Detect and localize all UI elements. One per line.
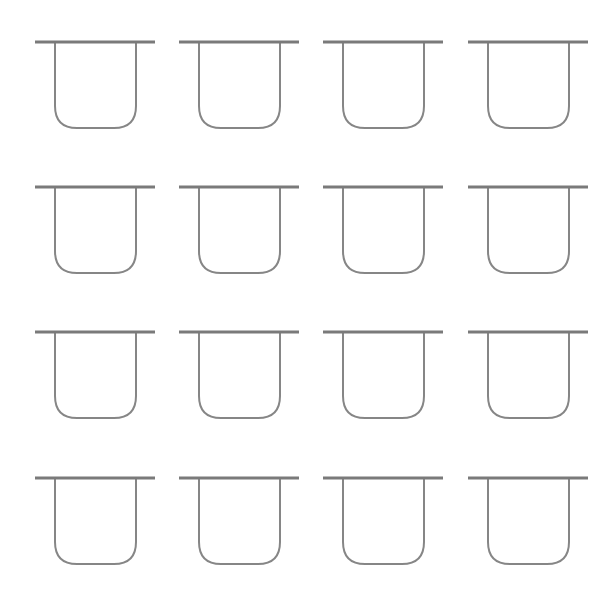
cup-body-outline	[343, 478, 424, 564]
cup-body-outline	[199, 187, 280, 273]
cup-shape-r2-c3	[323, 187, 443, 273]
cup-body-outline	[343, 42, 424, 128]
cup-shape-r3-c1	[35, 332, 155, 418]
cup-body-outline	[343, 332, 424, 418]
cup-shape-r1-c1	[35, 42, 155, 128]
cup-shape-r2-c4	[468, 187, 588, 273]
cup-shape-r3-c3	[323, 332, 443, 418]
cup-shape-r4-c3	[323, 478, 443, 564]
cup-body-outline	[488, 332, 569, 418]
cup-body-outline	[199, 42, 280, 128]
cup-body-outline	[55, 478, 136, 564]
cup-body-outline	[199, 332, 280, 418]
cup-shape-r3-c4	[468, 332, 588, 418]
cup-body-outline	[55, 42, 136, 128]
cup-shape-r3-c2	[179, 332, 299, 418]
cup-grid-diagram	[0, 0, 616, 602]
cup-shape-r2-c2	[179, 187, 299, 273]
cup-shape-r1-c2	[179, 42, 299, 128]
cup-shape-r4-c4	[468, 478, 588, 564]
cup-shape-r4-c2	[179, 478, 299, 564]
cup-body-outline	[488, 187, 569, 273]
cup-body-outline	[55, 187, 136, 273]
cup-body-outline	[488, 42, 569, 128]
cup-shape-r4-c1	[35, 478, 155, 564]
cup-body-outline	[343, 187, 424, 273]
cup-shape-r1-c3	[323, 42, 443, 128]
cup-grid-svg	[0, 0, 616, 602]
cup-shape-r1-c4	[468, 42, 588, 128]
cup-body-outline	[55, 332, 136, 418]
cup-shape-r2-c1	[35, 187, 155, 273]
cup-body-outline	[199, 478, 280, 564]
cup-body-outline	[488, 478, 569, 564]
